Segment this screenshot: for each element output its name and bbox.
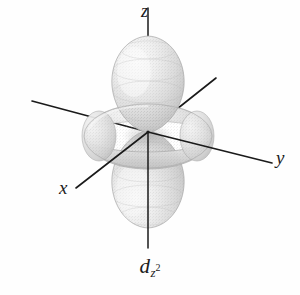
axis-label-z: z <box>141 2 148 20</box>
axis-label-y: y <box>276 148 284 167</box>
orbital-figure: z y x dz2 <box>0 0 300 295</box>
caption-base-letter: d <box>139 254 150 278</box>
caption-superscript: 2 <box>156 262 161 273</box>
orbital-illustration <box>0 0 300 295</box>
orbital-caption: dz2 <box>0 256 300 279</box>
axis-origin-point <box>146 130 149 133</box>
axis-label-x: x <box>59 178 67 197</box>
